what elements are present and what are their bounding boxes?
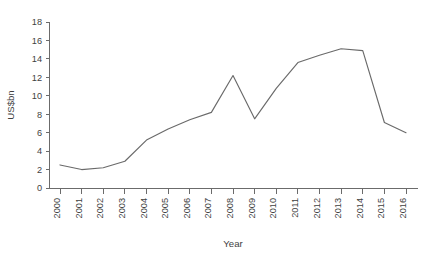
x-axis-title: Year	[223, 238, 243, 249]
x-axis-tick-label: 2014	[355, 198, 365, 218]
x-axis-tick-label: 2002	[95, 198, 105, 218]
x-axis-tick-label: 2003	[117, 198, 127, 218]
y-axis-tick-label: 0	[37, 183, 42, 193]
y-axis-tick-label: 18	[32, 17, 42, 27]
y-axis-tick-label: 16	[32, 36, 42, 46]
line-chart-figure: 024681012141618US$bn20002001200220032004…	[0, 0, 433, 259]
x-axis-tick-label: 2016	[398, 198, 408, 218]
x-axis-tick-label: 2009	[247, 198, 257, 218]
y-axis-tick-label: 6	[37, 128, 42, 138]
data-series-line	[60, 49, 406, 170]
y-axis-tick-label: 12	[32, 73, 42, 83]
y-axis-title: US$bn	[5, 90, 16, 119]
x-axis-tick-label: 2011	[290, 198, 300, 218]
x-axis-tick-label: 2015	[376, 198, 386, 218]
x-axis-tick-label: 2000	[52, 198, 62, 218]
y-axis-tick-label: 4	[37, 146, 42, 156]
y-axis-tick-label: 2	[37, 165, 42, 175]
y-axis-tick-label: 8	[37, 110, 42, 120]
x-axis-tick-label: 2012	[312, 198, 322, 218]
y-axis-tick-label: 14	[32, 54, 42, 64]
y-axis-tick-label: 10	[32, 91, 42, 101]
x-axis-tick-label: 2008	[225, 198, 235, 218]
x-axis-tick-label: 2005	[160, 198, 170, 218]
x-axis-tick-label: 2001	[74, 198, 84, 218]
x-axis-tick-label: 2006	[182, 198, 192, 218]
x-axis-tick-label: 2007	[203, 198, 213, 218]
chart-plot-area: 024681012141618US$bn20002001200220032004…	[0, 0, 433, 259]
x-axis-tick-label: 2013	[333, 198, 343, 218]
x-axis-tick-label: 2010	[268, 198, 278, 218]
x-axis-tick-label: 2004	[139, 198, 149, 218]
